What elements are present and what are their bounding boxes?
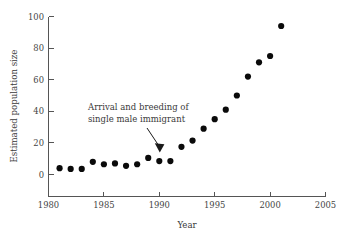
annotation-arrow-head xyxy=(155,143,165,152)
x-axis-ticks xyxy=(49,192,326,197)
data-point xyxy=(278,23,284,29)
data-point xyxy=(68,166,74,172)
data-point xyxy=(145,155,151,161)
data-point xyxy=(234,92,240,98)
data-point xyxy=(79,166,85,172)
annotation-text-group: Arrival and breeding of single male immi… xyxy=(87,102,189,124)
data-point xyxy=(90,159,96,165)
data-points-group xyxy=(56,23,284,172)
population-size-scatter-chart: 100 80 60 40 20 0 1980 1985 1990 1995 20… xyxy=(0,0,343,241)
annotation-arrow-shaft xyxy=(147,128,159,146)
data-point xyxy=(267,53,273,59)
y-axis-tick-labels: 100 80 60 40 20 0 xyxy=(28,12,44,180)
data-point xyxy=(178,144,184,150)
chart-canvas: 100 80 60 40 20 0 1980 1985 1990 1995 20… xyxy=(0,0,343,241)
data-point xyxy=(201,126,207,132)
y-tick-label-60: 60 xyxy=(33,75,44,85)
x-tick-label-2000: 2000 xyxy=(259,200,280,210)
y-tick-label-100: 100 xyxy=(28,12,44,22)
x-axis-title: Year xyxy=(176,220,197,230)
annotation-line-1: Arrival and breeding of xyxy=(87,102,189,112)
data-point xyxy=(189,137,195,143)
x-tick-label-1995: 1995 xyxy=(204,200,225,210)
data-point xyxy=(101,161,107,167)
x-axis-tick-labels: 1980 1985 1990 1995 2000 2005 xyxy=(38,200,336,210)
x-tick-label-1980: 1980 xyxy=(38,200,59,210)
y-tick-label-20: 20 xyxy=(33,138,44,148)
y-axis-ticks xyxy=(49,17,54,175)
x-tick-label-1990: 1990 xyxy=(149,200,170,210)
data-point xyxy=(245,73,251,79)
data-point xyxy=(223,107,229,113)
x-tick-label-1985: 1985 xyxy=(93,200,114,210)
annotation-arrow xyxy=(147,128,164,153)
data-point xyxy=(134,161,140,167)
data-point xyxy=(212,116,218,122)
data-point xyxy=(123,163,129,169)
y-tick-label-80: 80 xyxy=(33,43,44,53)
annotation-line-2: single male immigrant xyxy=(88,114,186,124)
x-tick-label-2005: 2005 xyxy=(315,200,336,210)
y-axis-title: Estimated population size xyxy=(9,50,19,163)
data-point xyxy=(112,160,118,166)
y-tick-label-40: 40 xyxy=(33,106,44,116)
data-point xyxy=(156,158,162,164)
y-tick-label-0: 0 xyxy=(39,170,44,180)
data-point xyxy=(256,59,262,65)
data-point xyxy=(167,158,173,164)
data-point xyxy=(56,165,62,171)
